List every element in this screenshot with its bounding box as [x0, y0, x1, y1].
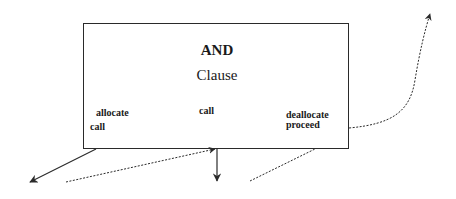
label-call-left: call [90, 122, 105, 132]
and-clause-box: AND Clause allocate call call deallocate… [83, 23, 349, 149]
box-title: AND [84, 43, 350, 58]
arrow-deallocate-proceed-out [349, 14, 430, 128]
arrow-proceed-in [250, 149, 315, 181]
label-allocate: allocate [96, 108, 129, 118]
arrow-call-return-in [66, 149, 215, 182]
box-subtitle: Clause [84, 68, 350, 83]
label-deallocate-proceed: deallocate proceed [286, 110, 329, 130]
label-proceed: proceed [286, 120, 329, 130]
arrow-allocate-call-out [30, 149, 96, 182]
label-call-middle: call [199, 106, 214, 116]
